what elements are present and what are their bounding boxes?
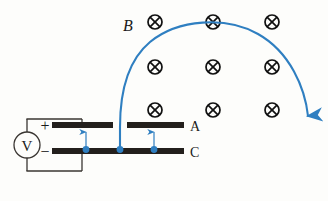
field-cross-icon [206, 60, 220, 74]
field-cross-icon [148, 60, 162, 74]
field-cross-icon [206, 103, 220, 117]
terminal-positive-label: + [40, 117, 49, 134]
field-cross-icon [265, 15, 279, 29]
diagram-canvas: V + − B A C [0, 0, 328, 201]
plate-a-right-segment [127, 122, 184, 128]
charge-dot [151, 146, 158, 153]
plate-c-label: C [190, 145, 199, 160]
plate-a-label: A [190, 119, 201, 134]
voltmeter-label: V [22, 138, 33, 154]
physics-diagram-figure: V + − B A C [0, 0, 328, 201]
plate-a-left-segment [52, 122, 113, 128]
voltmeter: V [14, 132, 40, 158]
field-cross-icon [265, 60, 279, 74]
magnetic-field-label: B [123, 17, 133, 34]
charge-dot [83, 146, 90, 153]
field-cross-icon [265, 103, 279, 117]
terminal-negative-label: − [40, 143, 49, 160]
field-cross-icon [148, 103, 162, 117]
field-cross-icon [148, 15, 162, 29]
particle-trajectory-path [120, 22, 308, 150]
